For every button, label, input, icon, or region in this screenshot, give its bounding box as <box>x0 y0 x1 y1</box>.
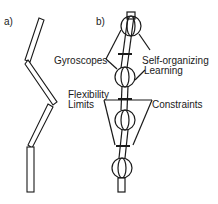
segment-3 <box>28 104 53 148</box>
panel-a-chain <box>25 18 57 192</box>
learning-label: Learning <box>144 66 183 76</box>
segment-4 <box>27 147 34 192</box>
gyroscopes-label: Gyroscopes <box>54 56 107 66</box>
panel-b-chain <box>104 12 152 192</box>
segment-2 <box>25 60 57 105</box>
limits-label: Limits <box>68 100 94 110</box>
segment-1 <box>25 18 44 62</box>
constraints-label: Constraints <box>152 100 203 110</box>
